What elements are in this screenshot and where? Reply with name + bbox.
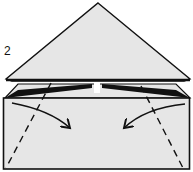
top-triangle-flap [6, 3, 190, 81]
origami-diagram [0, 0, 193, 172]
